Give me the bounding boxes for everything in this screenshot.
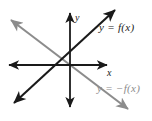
line-label-neg-f: y = −f(x): [97, 83, 140, 94]
graph-figure: y x y = f(x) y = −f(x): [0, 0, 152, 121]
y-axis-label: y: [75, 13, 79, 23]
x-axis-label: x: [107, 68, 111, 78]
line-label-f: y = f(x): [99, 22, 134, 33]
